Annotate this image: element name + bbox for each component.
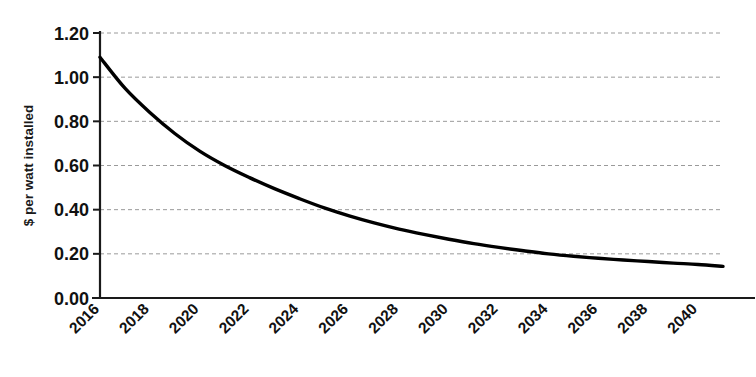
y-tick-label: 0.40 bbox=[54, 200, 89, 220]
chart-container: 0.000.200.400.600.801.001.20 20162018202… bbox=[0, 0, 756, 377]
line-chart: 0.000.200.400.600.801.001.20 20162018202… bbox=[0, 0, 756, 377]
y-axis-title-group: $ per watt installed bbox=[21, 105, 36, 227]
y-tick-label: 0.60 bbox=[54, 156, 89, 176]
y-tick-label: 0.20 bbox=[54, 244, 89, 264]
y-axis-title: $ per watt installed bbox=[21, 105, 36, 227]
y-tick-label: 0.80 bbox=[54, 112, 89, 132]
y-tick-label: 1.00 bbox=[54, 68, 89, 88]
y-tick-label: 1.20 bbox=[54, 24, 89, 44]
